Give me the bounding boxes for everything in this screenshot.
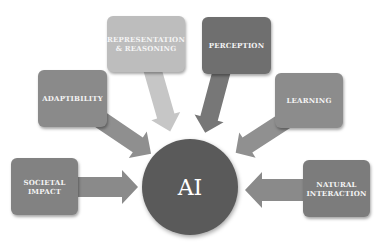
- node-perception-label: PERCEPTION: [209, 41, 265, 50]
- arrow-perception: [191, 66, 237, 137]
- center-node-label: AI: [178, 175, 203, 200]
- label-line: & REASONING: [116, 44, 177, 53]
- node-representation-reasoning: REPRESENTATION & REASONING: [107, 16, 185, 72]
- arrow-representation-reasoning: [138, 64, 185, 136]
- node-societal-impact-label: SOCIETAL IMPACT: [23, 178, 65, 196]
- label-line: REPRESENTATION: [107, 35, 185, 44]
- label-line: IMPACT: [28, 187, 61, 196]
- arrow-natural-interaction: [245, 172, 306, 208]
- node-perception: PERCEPTION: [202, 17, 271, 74]
- center-node-ai: AI: [142, 139, 238, 235]
- node-representation-reasoning-label: REPRESENTATION & REASONING: [107, 35, 185, 53]
- label-line: NATURAL: [316, 180, 356, 189]
- node-adaptability: ADAPTIBILITY: [38, 70, 107, 127]
- node-natural-interaction: NATURAL INTERACTION: [303, 160, 370, 217]
- node-learning: LEARNING: [275, 73, 343, 128]
- node-natural-interaction-label: NATURAL INTERACTION: [306, 180, 366, 198]
- label-line: SOCIETAL: [23, 178, 65, 187]
- node-adaptability-label: ADAPTIBILITY: [42, 94, 103, 103]
- arrow-societal-impact: [76, 170, 138, 204]
- node-societal-impact: SOCIETAL IMPACT: [11, 158, 78, 215]
- label-line: INTERACTION: [306, 189, 366, 198]
- node-learning-label: LEARNING: [286, 96, 331, 105]
